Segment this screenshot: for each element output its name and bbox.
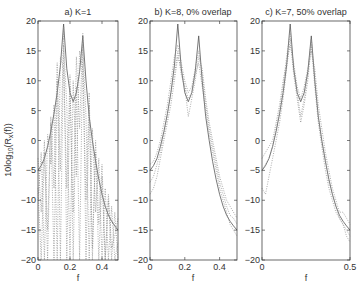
y-tick-label: −10 (245, 195, 260, 205)
y-tick-label: −20 (21, 255, 36, 265)
axes-frame (262, 21, 350, 260)
subplot-title: c) K=7, 50% overlap (265, 7, 346, 17)
y-tick-label: 0 (255, 136, 260, 146)
y-tick-label: −10 (21, 195, 36, 205)
x-tick-label: 0.2 (179, 262, 192, 272)
x-tick-label: 0.5 (344, 262, 357, 272)
estimate-line (262, 39, 350, 242)
y-tick-label: 20 (26, 16, 36, 26)
subplot-title: a) K=1 (65, 7, 92, 17)
y-tick-label: −10 (133, 195, 148, 205)
x-tick-label: 0.4 (213, 262, 226, 272)
y-tick-label: 10 (250, 76, 260, 86)
estimate-line (38, 27, 118, 260)
y-tick-label: −15 (245, 225, 260, 235)
y-tick-label: 5 (31, 106, 36, 116)
subplot-c: c) K=7, 50% overlap f 20151050−5−10−15−2… (245, 7, 357, 283)
y-tick-label: −20 (133, 255, 148, 265)
y-tick-label: 15 (138, 46, 148, 56)
y-tick-label: 10 (138, 76, 148, 86)
plot-area (150, 24, 237, 236)
x-axis-label: f (192, 273, 195, 283)
estimate-line (38, 45, 118, 260)
x-axis-label: f (77, 273, 80, 283)
axes-frame (38, 21, 118, 260)
y-tick-label: 0 (31, 136, 36, 146)
plot-area (38, 24, 118, 260)
y-tick-label: 15 (250, 46, 260, 56)
y-tick-label: 15 (26, 46, 36, 56)
y-tick-label: −5 (138, 165, 148, 175)
x-tick-label: 0 (259, 262, 264, 272)
subplot-title: b) K=8, 0% overlap (155, 7, 232, 17)
estimate-line (262, 33, 350, 236)
y-tick-label: 20 (138, 16, 148, 26)
y-tick-label: 10 (26, 76, 36, 86)
estimate-line (38, 45, 118, 260)
y-tick-label: 5 (143, 106, 148, 116)
true-spectrum-line (150, 24, 237, 230)
y-axis-label: 10log10(Rx(f)) (3, 123, 14, 177)
y-tick-label: −15 (21, 225, 36, 235)
subplot-b: b) K=8, 0% overlap f 20151050−5−10−15−20… (133, 7, 237, 283)
y-tick-label: 20 (250, 16, 260, 26)
y-tick-label: 0 (143, 136, 148, 146)
x-axis-label: f (305, 273, 308, 283)
plot-area (262, 24, 350, 242)
y-tick-label: −5 (26, 165, 36, 175)
figure: 10log10(Rx(f)) a) K=1 f 20151050−5−10−15… (0, 0, 357, 284)
y-tick-label: −20 (245, 255, 260, 265)
svg-text:10log10(Rx(f)): 10log10(Rx(f)) (3, 123, 14, 177)
y-tick-label: −5 (250, 165, 260, 175)
y-tick-label: 5 (255, 106, 260, 116)
x-tick-label: 0.4 (96, 262, 109, 272)
subplot-a: a) K=1 f 20151050−5−10−15−2000.20.4 (21, 7, 118, 283)
x-tick-label: 0.2 (64, 262, 77, 272)
x-tick-label: 0 (35, 262, 40, 272)
x-tick-label: 0 (147, 262, 152, 272)
y-tick-label: −15 (133, 225, 148, 235)
